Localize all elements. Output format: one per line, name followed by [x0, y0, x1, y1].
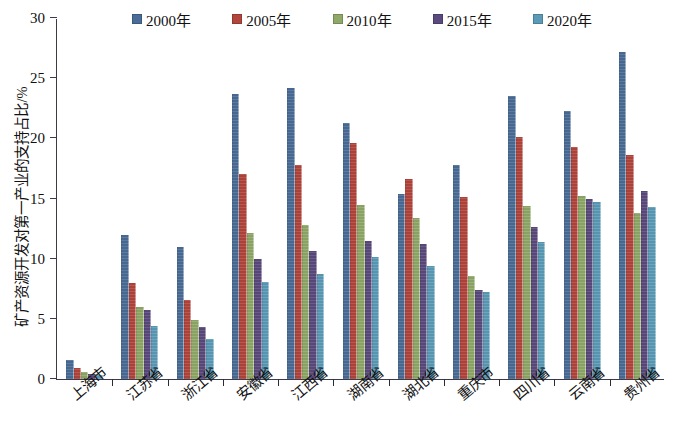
- y-axis-tick: [50, 77, 57, 78]
- x-axis-tick: [223, 379, 224, 386]
- bar-2010年-湖南省: [357, 205, 364, 379]
- bar-2010年-四川省: [523, 206, 530, 379]
- x-axis-tick: [554, 379, 555, 386]
- bar-2020年-四川省: [538, 242, 545, 379]
- bar-2015年-云南省: [586, 199, 593, 380]
- bar-2005年-江苏省: [129, 283, 136, 379]
- x-axis-tick: [444, 379, 445, 386]
- x-axis-tick: [610, 379, 611, 386]
- bar-2010年-湖北省: [413, 218, 420, 379]
- bar-2000年-重庆市: [453, 165, 460, 379]
- bar-2005年-湖北省: [405, 179, 412, 379]
- bar-2020年-贵州省: [648, 207, 655, 379]
- bar-2010年-贵州省: [634, 213, 641, 379]
- bar-group: [223, 19, 278, 379]
- bar-2005年-贵州省: [626, 155, 633, 379]
- y-axis-tick: [50, 318, 57, 319]
- bar-2000年-浙江省: [177, 247, 184, 379]
- bar-2000年-湖北省: [398, 194, 405, 379]
- y-axis-tick: [50, 258, 57, 259]
- x-axis-tick: [333, 379, 334, 386]
- y-axis-tick-label: 25: [11, 70, 45, 87]
- bar-2015年-贵州省: [641, 191, 648, 379]
- bar-2000年-贵州省: [619, 52, 626, 379]
- bar-group: [610, 19, 665, 379]
- bar-group: [333, 19, 388, 379]
- bar-2005年-云南省: [571, 147, 578, 379]
- bar-2000年-四川省: [508, 96, 515, 379]
- bar-2000年-云南省: [564, 111, 571, 379]
- bar-2005年-湖南省: [350, 143, 357, 379]
- y-axis-tick-label: 5: [11, 310, 45, 327]
- bar-2010年-江西省: [302, 225, 309, 379]
- bar-group: [112, 19, 167, 379]
- bar-2005年-安徽省: [239, 174, 246, 379]
- bar-2010年-安徽省: [247, 233, 254, 379]
- bar-2000年-江西省: [287, 88, 294, 379]
- bar-2015年-四川省: [531, 227, 538, 379]
- bar-2000年-江苏省: [121, 235, 128, 379]
- y-axis-tick: [50, 17, 57, 18]
- x-axis-tick: [168, 379, 169, 386]
- x-axis-tick: [499, 379, 500, 386]
- bar-group: [554, 19, 609, 379]
- bar-group: [168, 19, 223, 379]
- bar-2000年-湖南省: [343, 123, 350, 379]
- bar-2015年-湖南省: [365, 241, 372, 379]
- bar-group: [389, 19, 444, 379]
- x-axis-tick: [389, 379, 390, 386]
- y-axis-tick-label: 30: [11, 10, 45, 27]
- bar-2005年-四川省: [516, 137, 523, 379]
- bar-2005年-江西省: [295, 165, 302, 379]
- bar-group: [278, 19, 333, 379]
- bar-2000年-安徽省: [232, 94, 239, 379]
- y-axis-tick: [50, 137, 57, 138]
- y-axis-tick-label: 15: [11, 190, 45, 207]
- bar-group: [499, 19, 554, 379]
- plot-area: 051015202530: [56, 19, 664, 380]
- bar-2000年-上海市: [66, 360, 73, 379]
- bar-2015年-江西省: [309, 251, 316, 379]
- y-axis-tick-label: 10: [11, 250, 45, 267]
- y-axis-tick: [50, 198, 57, 199]
- y-axis-tick-label: 20: [11, 130, 45, 147]
- bar-2015年-安徽省: [254, 259, 261, 379]
- bar-group: [444, 19, 499, 379]
- bar-2010年-重庆市: [468, 276, 475, 379]
- x-axis-tick: [278, 379, 279, 386]
- bar-2015年-湖北省: [420, 244, 427, 379]
- bar-2010年-云南省: [578, 196, 585, 379]
- bar-2005年-浙江省: [184, 300, 191, 379]
- y-axis-tick: [50, 378, 57, 379]
- bar-group: [57, 19, 112, 379]
- x-axis-tick: [112, 379, 113, 386]
- bar-2020年-云南省: [593, 202, 600, 379]
- bar-chart: 2000年2005年2010年2015年2020年 矿产资源开发对第一产业的支持…: [0, 0, 675, 431]
- bar-2005年-重庆市: [460, 197, 467, 379]
- y-axis-tick-label: 0: [11, 371, 45, 388]
